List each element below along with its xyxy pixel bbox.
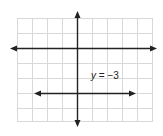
- y-axis-down-arrow-icon: [75, 120, 81, 127]
- line-left-arrow-icon: [34, 91, 41, 97]
- grid: [17, 18, 153, 122]
- coordinate-plane: [0, 0, 163, 136]
- x-axis-left-arrow-icon: [10, 46, 17, 52]
- line-y-equals-neg-3: [34, 91, 136, 97]
- equation-value: = −3: [96, 70, 119, 81]
- y-axis: [75, 11, 81, 127]
- y-axis-up-arrow-icon: [75, 11, 81, 18]
- equation-label: y = −3: [91, 71, 119, 81]
- line-right-arrow-icon: [129, 91, 136, 97]
- x-axis-right-arrow-icon: [150, 46, 157, 52]
